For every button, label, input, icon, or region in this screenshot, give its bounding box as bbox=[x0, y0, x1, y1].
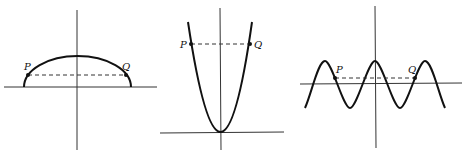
panel-parabola: P Q bbox=[160, 8, 284, 150]
point-q bbox=[413, 76, 417, 80]
label-q: Q bbox=[254, 39, 262, 50]
point-p bbox=[189, 42, 193, 46]
label-p: P bbox=[23, 61, 31, 72]
label-p: P bbox=[179, 39, 187, 50]
panel-cosine-wave: P Q bbox=[300, 6, 462, 148]
figure: P Q P Q P Q bbox=[0, 0, 462, 156]
label-p: P bbox=[335, 64, 343, 75]
panel-semi-ellipse: P Q bbox=[4, 10, 157, 150]
point-p bbox=[333, 76, 337, 80]
label-q: Q bbox=[122, 61, 130, 72]
y-axis bbox=[375, 6, 376, 148]
label-q: Q bbox=[408, 64, 416, 75]
y-axis bbox=[220, 8, 221, 150]
point-p bbox=[26, 73, 30, 77]
point-q bbox=[124, 73, 128, 77]
point-q bbox=[248, 42, 252, 46]
